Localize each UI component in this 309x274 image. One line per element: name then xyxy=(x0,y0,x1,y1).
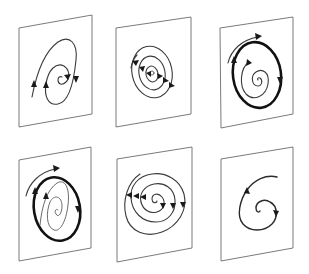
panel-5-plane xyxy=(117,147,192,262)
panel-4-limit-cycle xyxy=(19,147,91,261)
phase-portrait-figure xyxy=(0,0,309,274)
panel-5-spiral xyxy=(117,147,192,262)
panel-1-unstable-spiral xyxy=(19,15,92,127)
panel-1-plane xyxy=(19,15,92,127)
panel-6-single-spiral xyxy=(221,147,293,261)
panel-2-nested-orbits xyxy=(116,17,191,127)
panel-3-limit-cycle xyxy=(220,17,293,128)
